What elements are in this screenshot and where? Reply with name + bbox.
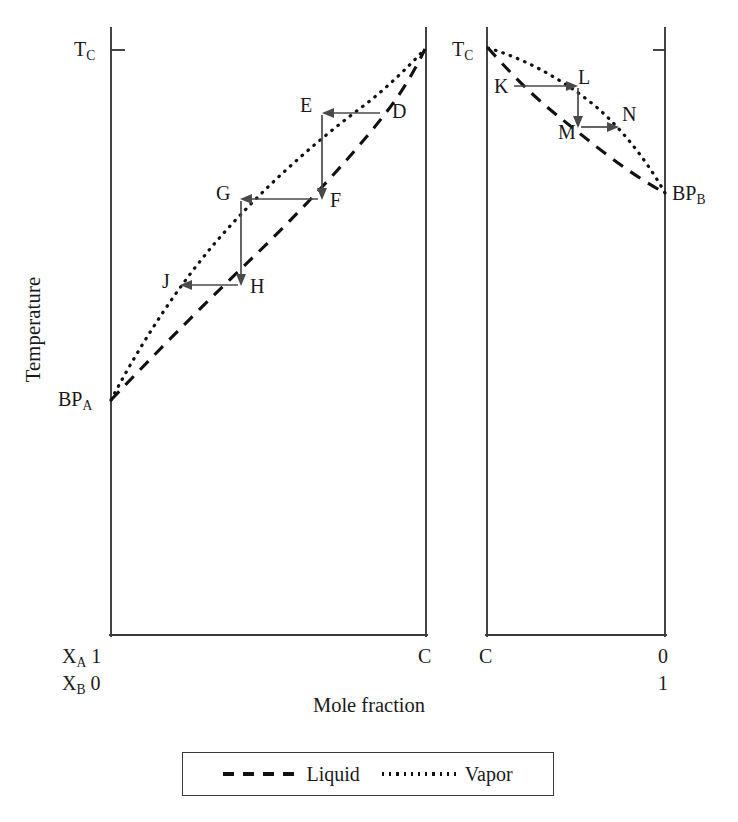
xb-value: 0	[91, 672, 101, 694]
xa-subscript: A	[76, 655, 86, 670]
x-tick-right-panel-right-one: 1	[658, 672, 668, 695]
x-tick-right-panel-right-zero: 0	[658, 645, 668, 668]
legend-item-vapor: Vapor	[382, 763, 513, 786]
arrow-k-to-l	[514, 81, 578, 91]
point-label-h: H	[250, 276, 264, 296]
left-panel-tc-label: TC	[74, 39, 95, 62]
tc-symbol: T	[74, 38, 86, 60]
left-panel-step-arrows	[180, 108, 380, 290]
arrow-e-to-f	[317, 115, 327, 200]
point-label-e: E	[300, 95, 312, 115]
arrow-h-to-j	[180, 280, 238, 290]
xa-value: 1	[91, 645, 101, 667]
phase-diagram-figure: Temperature Mole fraction TC BPA D E F G…	[0, 0, 738, 822]
tc-right-subscript: C	[464, 48, 473, 63]
legend-item-liquid: Liquid	[223, 763, 359, 786]
left-panel-liquid-curve	[111, 49, 425, 400]
point-label-j: J	[162, 271, 170, 291]
right-panel-bpb-label: BPB	[672, 183, 706, 206]
x-tick-xa-row: XA 1	[62, 645, 101, 671]
right-panel-tc-label: TC	[452, 39, 473, 62]
legend: Liquid Vapor	[182, 752, 554, 796]
x-tick-right-panel-left-c: C	[479, 645, 492, 668]
point-label-d: D	[392, 101, 406, 121]
left-panel-curves	[111, 49, 425, 400]
bpb-subscript: B	[696, 192, 705, 207]
point-label-g: G	[216, 183, 230, 203]
legend-label-vapor: Vapor	[465, 763, 513, 786]
dashed-line-icon	[223, 772, 297, 775]
point-label-m: M	[558, 122, 576, 142]
point-label-f: F	[330, 190, 341, 210]
x-tick-left-panel-right-c: C	[418, 645, 431, 668]
tc-subscript: C	[86, 48, 95, 63]
point-label-l: L	[578, 67, 590, 87]
x-axis-title: Mole fraction	[0, 694, 738, 717]
bpb-symbol: BP	[672, 182, 696, 204]
y-axis-title: Temperature	[22, 235, 45, 425]
left-panel-bpa-label: BPA	[58, 389, 92, 412]
left-panel-vapor-curve	[111, 49, 425, 400]
bpa-subscript: A	[82, 398, 92, 413]
xb-symbol: X	[62, 672, 76, 694]
dotted-line-icon	[382, 772, 456, 775]
legend-label-liquid: Liquid	[306, 763, 359, 786]
point-label-n: N	[622, 104, 636, 124]
point-label-k: K	[494, 76, 508, 96]
tc-right-symbol: T	[452, 38, 464, 60]
xb-subscript: B	[76, 682, 85, 697]
x-tick-xb-row: XB 0	[62, 672, 101, 698]
xa-symbol: X	[62, 645, 76, 667]
bpa-symbol: BP	[58, 388, 82, 410]
